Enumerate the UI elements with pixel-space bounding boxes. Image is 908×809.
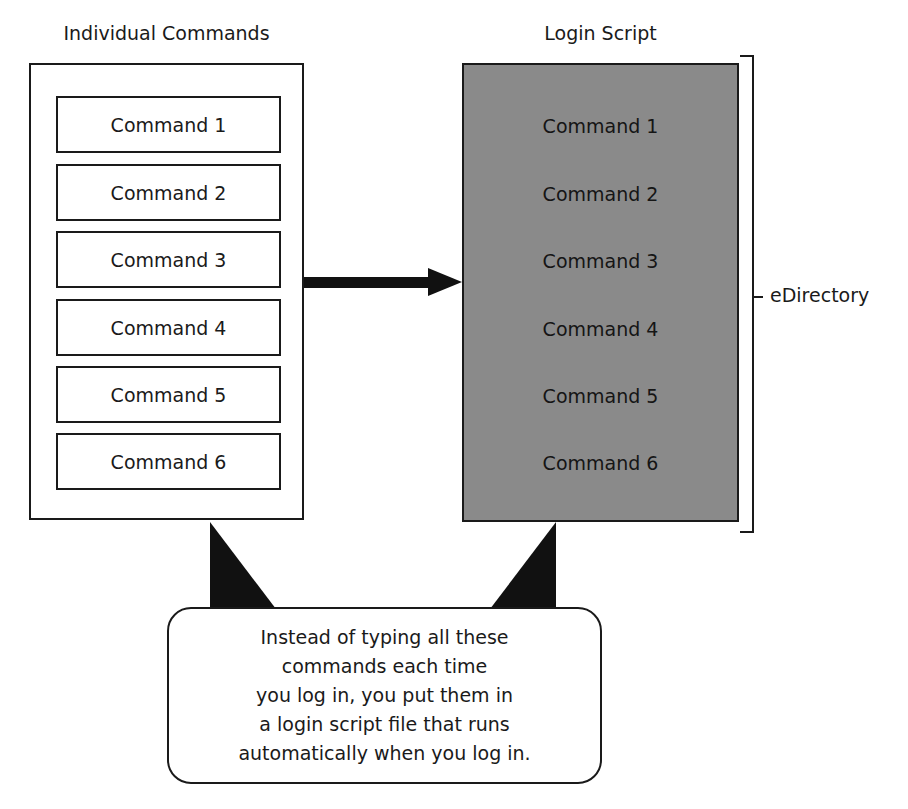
callout-line-5: automatically when you log in. [238, 739, 530, 768]
right-pointer-icon [490, 522, 556, 609]
callout-line-3: you log in, you put them in [238, 681, 530, 710]
callout-line-1: Instead of typing all these [238, 623, 530, 652]
callout-text: Instead of typing all these commands eac… [238, 623, 530, 768]
left-pointer-icon [210, 522, 276, 609]
callout-line-2: commands each time [238, 652, 530, 681]
explanation-callout: Instead of typing all these commands eac… [167, 607, 602, 784]
callout-line-4: a login script file that runs [238, 710, 530, 739]
